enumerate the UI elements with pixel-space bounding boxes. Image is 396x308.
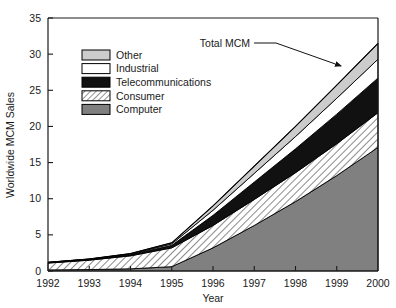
y-axis-title: Worldwide MCM Sales bbox=[4, 92, 16, 198]
legend-swatch-consumer bbox=[82, 91, 110, 101]
legend-swatch-telecommunications bbox=[82, 77, 110, 87]
x-axis-ticks: 199219931994199519961997199819992000 bbox=[36, 266, 390, 289]
legend-label-computer: Computer bbox=[116, 103, 163, 115]
x-tick-label: 1996 bbox=[201, 277, 225, 289]
y-tick-label: 5 bbox=[35, 228, 41, 240]
y-tick-label: 10 bbox=[29, 192, 41, 204]
legend-label-consumer: Consumer bbox=[116, 90, 165, 102]
x-axis-title: Year bbox=[202, 292, 224, 304]
legend-swatch-industrial bbox=[82, 64, 110, 74]
chart-figure: 05101520253035 1992199319941995199619971… bbox=[0, 0, 396, 308]
y-tick-label: 0 bbox=[35, 265, 41, 277]
x-tick-label: 1993 bbox=[78, 277, 102, 289]
stacked-area-chart: 05101520253035 1992199319941995199619971… bbox=[0, 0, 396, 308]
y-tick-label: 35 bbox=[29, 12, 41, 24]
legend-swatch-other bbox=[82, 50, 110, 60]
legend-label-industrial: Industrial bbox=[116, 62, 159, 74]
x-tick-label: 1998 bbox=[284, 277, 308, 289]
y-tick-label: 25 bbox=[29, 84, 41, 96]
x-tick-label: 1992 bbox=[36, 277, 60, 289]
legend-label-telecommunications: Telecommunications bbox=[116, 76, 211, 88]
x-tick-label: 2000 bbox=[366, 277, 390, 289]
x-tick-label: 1999 bbox=[325, 277, 349, 289]
x-tick-label: 1994 bbox=[119, 277, 143, 289]
y-tick-label: 30 bbox=[29, 48, 41, 60]
x-tick-label: 1995 bbox=[160, 277, 184, 289]
total-mcm-label: Total MCM bbox=[200, 37, 250, 49]
legend-label-other: Other bbox=[116, 49, 143, 61]
x-tick-label: 1997 bbox=[243, 277, 267, 289]
y-tick-label: 20 bbox=[29, 120, 41, 132]
y-tick-label: 15 bbox=[29, 156, 41, 168]
legend-swatch-computer bbox=[82, 104, 110, 114]
